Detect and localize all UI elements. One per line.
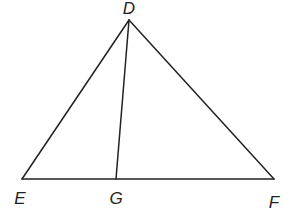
segment-df [129, 20, 274, 179]
label-f: F [269, 193, 281, 212]
label-d: D [123, 0, 135, 18]
segment-de [22, 20, 129, 179]
segment-dg [116, 20, 129, 179]
triangle-diagram: D E G F [0, 0, 299, 223]
label-e: E [14, 189, 26, 208]
label-g: G [109, 189, 122, 208]
diagram-canvas: D E G F [0, 0, 299, 223]
